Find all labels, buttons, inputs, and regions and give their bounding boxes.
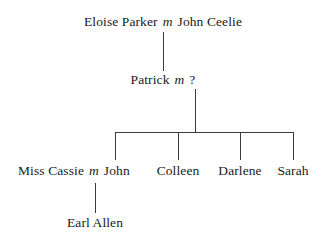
gen4-child-earl-allen-label: Earl Allen [67,215,123,230]
drop-line-child-colleen [178,132,179,160]
gen2-couple-node: Patrickm? [131,73,196,87]
gen1-person-right: John Ceelie [178,14,242,29]
gen3-child-node-darlene: Darlene [218,164,261,178]
gen3-couple-node-john: Miss CassiemJohn [18,164,130,178]
gen3-child-darlene-label: Darlene [218,163,261,178]
drop-line-child-darlene [240,132,241,160]
gen1-person-left: Eloise Parker [84,14,158,29]
drop-line-child-john [115,132,116,160]
gen3-child-john: John [104,163,130,178]
gen3-child-sarah-label: Sarah [277,163,308,178]
connector-gen1-to-gen2 [163,32,164,71]
gen3-child-node-colleen: Colleen [157,164,200,178]
gen2-marriage-symbol: m [173,72,187,87]
gen3-spouse-miss-cassie: Miss Cassie [18,163,84,178]
gen3-child-node-sarah: Sarah [277,164,308,178]
gen1-couple-node: Eloise ParkermJohn Ceelie [84,15,242,29]
gen2-person-right: ? [189,72,195,87]
drop-line-child-sarah [293,132,294,160]
family-tree-diagram: Eloise ParkermJohn Ceelie Patrickm? Miss… [0,0,330,245]
gen4-child-node-earl-allen: Earl Allen [67,216,123,230]
gen2-person-left: Patrick [131,72,170,87]
sibling-bar-gen3 [115,132,294,133]
connector-gen3-to-gen4 [95,183,96,213]
connector-gen2-to-sibling-bar [195,89,196,133]
gen1-marriage-symbol: m [161,14,175,29]
gen3-marriage-symbol: m [87,163,101,178]
gen3-child-colleen-label: Colleen [157,163,200,178]
